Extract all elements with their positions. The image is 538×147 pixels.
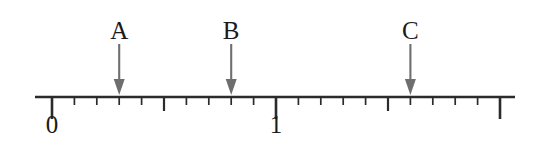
axis-label-0: 0 [46,112,59,137]
number-line-figure: 01 ABC [0,0,538,147]
marker-label-b: B [223,18,240,43]
marker-label-c: C [402,18,419,43]
marker-label-a: A [110,18,128,43]
arrow-head-a [114,79,125,95]
arrow-head-c [405,79,416,95]
marker-arrows [114,44,416,95]
axis-label-1: 1 [270,112,283,137]
arrow-head-b [226,79,237,95]
